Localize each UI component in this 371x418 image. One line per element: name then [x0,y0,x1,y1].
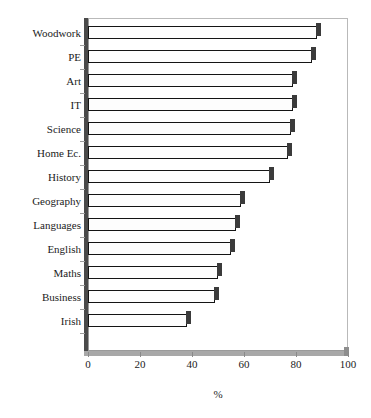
bar-row [88,117,348,141]
bar-shadow-cap [214,287,219,300]
x-axis-tick-label: 80 [276,358,316,370]
bar-shadow-cap [292,95,297,108]
category-label: English [0,243,81,255]
bar-row [88,261,348,285]
y-axis-tick [80,69,85,70]
y-axis-tick [80,165,85,166]
y-axis-tick [80,45,85,46]
category-label: PE [0,51,81,63]
category-label: Art [0,75,81,87]
y-axis-tick [80,93,85,94]
bar-row [88,309,348,333]
bar-shadow-cap [186,311,191,324]
y-axis-tick [80,117,85,118]
category-label: Irish [0,315,81,327]
bar-row [88,45,348,69]
x-axis-tick [348,352,349,357]
x-axis-title: % [88,388,348,400]
bar-english [88,242,231,255]
y-axis-tick [80,213,85,214]
category-label: Science [0,123,81,135]
category-label: IT [0,99,81,111]
y-axis-tick [80,237,85,238]
bar-shadow-cap [230,239,235,252]
y-axis-tick [80,333,85,334]
bar-shadow-cap [240,191,245,204]
x-axis-tick [192,352,193,357]
bar-shadow-cap [235,215,240,228]
bar-woodwork [88,26,317,39]
category-label: Maths [0,267,81,279]
bar-row [88,213,348,237]
bar-shadow-cap [292,71,297,84]
x-axis-tick-label: 100 [328,358,368,370]
bar-shadow-cap [217,263,222,276]
x-axis-tick-label: 0 [68,358,108,370]
x-axis-tick [88,352,89,357]
bar-science [88,122,291,135]
bar-maths [88,266,218,279]
category-label: Woodwork [0,27,81,39]
bar-shadow-cap [290,119,295,132]
y-axis-tick [80,309,85,310]
bar-row [88,21,348,45]
y-axis-tick [80,189,85,190]
bar-pe [88,50,312,63]
category-label: Home Ec. [0,147,81,159]
bar-chart: WoodworkPEArtITScienceHome Ec.HistoryGeo… [0,0,371,418]
bar-row [88,285,348,309]
category-label: Business [0,291,81,303]
y-axis-tick [80,261,85,262]
bar-geography [88,194,241,207]
bar-it [88,98,293,111]
bar-art [88,74,293,87]
category-label: Geography [0,195,81,207]
bar-business [88,290,215,303]
category-label: Languages [0,219,81,231]
bar-history [88,170,270,183]
category-label: History [0,171,81,183]
x-axis-tick-label: 40 [172,358,212,370]
bar-shadow-cap [287,143,292,156]
bar-shadow-cap [311,47,316,60]
bar-row [88,141,348,165]
bar-shadow-cap [269,167,274,180]
x-axis-tick-label: 20 [120,358,160,370]
x-axis-tick-label: 60 [224,358,264,370]
bar-shadow-cap [316,23,321,36]
bars-layer: WoodworkPEArtITScienceHome Ec.HistoryGeo… [0,0,371,418]
bar-row [88,237,348,261]
bar-row [88,93,348,117]
bar-home-ec [88,146,288,159]
y-axis-tick [80,141,85,142]
x-axis-tick [140,352,141,357]
y-axis-tick [80,285,85,286]
bar-languages [88,218,236,231]
x-axis-tick [244,352,245,357]
bar-irish [88,314,187,327]
x-axis-tick [296,352,297,357]
bar-row [88,165,348,189]
bar-row [88,189,348,213]
bar-row [88,69,348,93]
